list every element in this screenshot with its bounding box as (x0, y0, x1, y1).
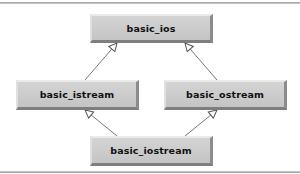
edge-iostream-to-istream (85, 110, 117, 136)
node-basic-iostream: basic_iostream (90, 136, 213, 166)
bottom-divider (0, 171, 300, 173)
node-label: basic_ios (127, 23, 176, 34)
edge-istream-to-ios (85, 43, 117, 80)
node-basic-istream: basic_istream (16, 80, 139, 110)
node-label: basic_ostream (186, 89, 264, 100)
node-basic-ios: basic_ios (90, 14, 213, 43)
edge-ostream-to-ios (185, 43, 217, 80)
edge-iostream-to-ostream (185, 110, 217, 136)
node-basic-ostream: basic_ostream (164, 80, 287, 110)
node-label: basic_istream (40, 89, 115, 100)
node-label: basic_iostream (110, 145, 191, 156)
